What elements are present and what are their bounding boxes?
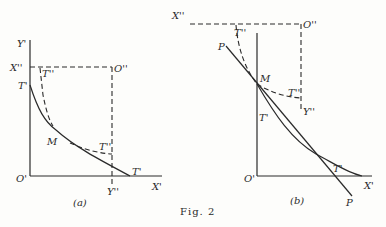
label-t1-top-a: T'	[18, 80, 27, 91]
label-x2-a: X''	[9, 62, 23, 73]
label-origin-b: O'	[244, 173, 255, 184]
label-o2-a: O''	[114, 63, 128, 74]
sublabel-a: (a)	[73, 197, 87, 208]
label-x-axis-b: X'	[363, 180, 374, 191]
sublabel-b: (b)	[290, 195, 304, 206]
label-origin-a: O'	[16, 173, 27, 184]
label-x-axis-a: X'	[151, 181, 162, 192]
label-t2-right-b: T''	[288, 87, 300, 98]
label-t1-bottom-b: T'	[333, 163, 342, 174]
label-x2-b: X''	[171, 10, 185, 21]
label-o2-b: O''	[303, 19, 317, 30]
label-y2-a: Y''	[107, 186, 119, 197]
panel-b: X'' T'' O'' P M T'' Y'' T' T' O' X' P (b…	[171, 10, 374, 208]
label-y2-b: Y''	[303, 106, 315, 117]
label-m-b: M	[259, 73, 271, 84]
label-t2-top-b: T''	[234, 27, 246, 38]
label-t1-right-a: T'	[132, 166, 141, 177]
label-y-axis-a: Y'	[17, 38, 26, 49]
label-t2-right-a: T''	[99, 141, 111, 152]
label-p-top: P	[217, 41, 225, 52]
label-t2-top-a: T''	[42, 68, 54, 79]
label-t1-left-b: T'	[259, 112, 268, 123]
panel-a: Y' X'' T'' O'' T' M T'' T' O' X' Y'' (a)	[9, 38, 162, 208]
indifference-curve-a	[30, 85, 130, 176]
label-m-a: M	[46, 136, 58, 147]
figure-caption: Fig. 2	[180, 206, 215, 217]
indifference-curve-b	[257, 84, 362, 176]
label-p-bottom: P	[345, 197, 353, 208]
figure-2: Y' X'' T'' O'' T' M T'' T' O' X' Y'' (a)…	[0, 0, 386, 227]
